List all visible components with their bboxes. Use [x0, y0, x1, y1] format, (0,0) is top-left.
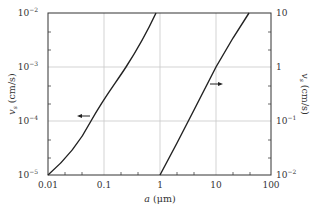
y-right-axis-label: vs (cm/s) [299, 73, 311, 114]
svg-text:10−1: 10−1 [276, 114, 296, 126]
gridlines [48, 13, 271, 175]
svg-text:1: 1 [276, 62, 282, 72]
plot-frame [48, 13, 271, 175]
svg-text:10−4: 10−4 [18, 114, 38, 126]
x-axis-label: a (μm) [144, 193, 175, 204]
y-left-axis-label: vs (cm/s) [6, 73, 18, 114]
right-curve [160, 13, 249, 175]
svg-text:0.01: 0.01 [38, 180, 58, 190]
minor-ticks [48, 32, 271, 175]
left-curve [48, 13, 156, 175]
x-tick-labels: 0.01 0.1 1 10 100 [38, 180, 280, 190]
svg-text:100: 100 [262, 180, 279, 190]
svg-text:10−2: 10−2 [18, 6, 38, 18]
left-axis-arrow-icon [77, 114, 90, 118]
y-right-tick-labels: 10 1 10−1 10−2 [276, 8, 296, 180]
chart: 0.01 0.1 1 10 100 a (μm) 10−2 10−3 10−4 … [0, 0, 311, 213]
y-left-tick-labels: 10−2 10−3 10−4 10−5 [18, 6, 38, 180]
svg-text:0.1: 0.1 [97, 180, 111, 190]
svg-text:10: 10 [276, 8, 288, 18]
right-axis-arrow-icon [210, 82, 223, 86]
svg-text:10: 10 [210, 180, 222, 190]
svg-text:10−2: 10−2 [276, 168, 296, 180]
svg-text:10−5: 10−5 [18, 168, 38, 180]
svg-text:10−3: 10−3 [18, 60, 38, 72]
svg-text:1: 1 [157, 180, 163, 190]
